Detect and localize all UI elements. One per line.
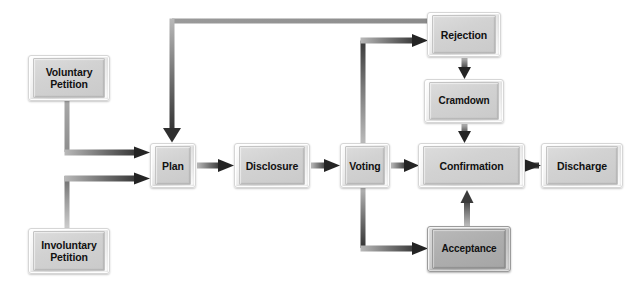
- node-voting-inner: Voting: [345, 146, 385, 185]
- node-cramdown-label: Cramdown: [439, 95, 490, 107]
- edge-voting-to-acceptance: [361, 186, 429, 255]
- node-voting-label: Voting: [349, 160, 380, 172]
- node-plan-label: Plan: [162, 160, 184, 172]
- node-acceptance-label: Acceptance: [441, 243, 496, 255]
- node-involuntary-petition[interactable]: Involuntary Petition: [28, 228, 110, 274]
- edge-acceptance-to-confirmation: [461, 190, 474, 226]
- node-cramdown[interactable]: Cramdown: [424, 79, 504, 123]
- edge-voting-to-rejection: [361, 34, 429, 146]
- node-disclosure-inner: Disclosure: [239, 146, 305, 185]
- edge-voting-to-confirmation: [391, 159, 419, 172]
- node-confirmation-label: Confirmation: [439, 160, 503, 172]
- node-plan-inner: Plan: [155, 146, 191, 185]
- node-voluntary-petition-inner: Voluntary Petition: [33, 58, 105, 98]
- node-discharge-inner: Discharge: [546, 146, 618, 185]
- flowchart-canvas: Voluntary Petition Involuntary Petition …: [0, 0, 643, 289]
- node-confirmation[interactable]: Confirmation: [418, 143, 525, 188]
- edge-confirmation-to-discharge: [524, 159, 541, 172]
- node-plan[interactable]: Plan: [150, 143, 196, 188]
- edge-rejection-to-plan: [163, 19, 430, 143]
- node-rejection-inner: Rejection: [432, 15, 496, 54]
- node-discharge[interactable]: Discharge: [541, 143, 623, 188]
- node-disclosure[interactable]: Disclosure: [234, 143, 310, 188]
- edge-voluntary-to-plan: [65, 100, 151, 159]
- node-acceptance[interactable]: Acceptance: [427, 226, 511, 272]
- node-acceptance-inner: Acceptance: [432, 229, 506, 269]
- node-cramdown-inner: Cramdown: [429, 82, 499, 120]
- edge-cramdown-to-confirmation: [458, 124, 471, 143]
- node-involuntary-petition-label: Involuntary Petition: [41, 239, 97, 263]
- node-involuntary-petition-inner: Involuntary Petition: [33, 231, 105, 271]
- node-voluntary-petition-label: Voluntary Petition: [46, 66, 93, 90]
- node-rejection[interactable]: Rejection: [427, 12, 501, 57]
- edge-involuntary-to-plan: [65, 173, 151, 230]
- node-confirmation-inner: Confirmation: [423, 146, 520, 185]
- node-voluntary-petition[interactable]: Voluntary Petition: [28, 55, 110, 101]
- node-discharge-label: Discharge: [557, 160, 607, 172]
- edge-plan-to-disclosure: [197, 159, 234, 172]
- node-disclosure-label: Disclosure: [246, 160, 299, 172]
- edge-rejection-to-cramdown: [458, 58, 471, 79]
- node-voting[interactable]: Voting: [340, 143, 390, 188]
- edge-disclosure-to-voting: [311, 159, 340, 172]
- node-rejection-label: Rejection: [441, 29, 487, 41]
